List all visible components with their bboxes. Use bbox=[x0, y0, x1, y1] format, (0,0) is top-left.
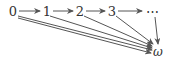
ordinal-diagram: 0 1 2 3 ⋯ ω bbox=[0, 0, 171, 60]
node-3: 3 bbox=[108, 5, 116, 18]
node-omega: ω bbox=[153, 46, 163, 58]
arrow-0-to-omega bbox=[18, 18, 151, 53]
node-0: 0 bbox=[9, 5, 17, 18]
arrow-3-to-omega bbox=[116, 16, 153, 44]
node-1: 1 bbox=[43, 5, 51, 18]
arrow-0-to-omega bbox=[18, 16, 152, 50]
node-2: 2 bbox=[76, 5, 84, 18]
node-ellipsis: ⋯ bbox=[146, 5, 159, 18]
arrow-dots-to-omega bbox=[155, 17, 158, 44]
